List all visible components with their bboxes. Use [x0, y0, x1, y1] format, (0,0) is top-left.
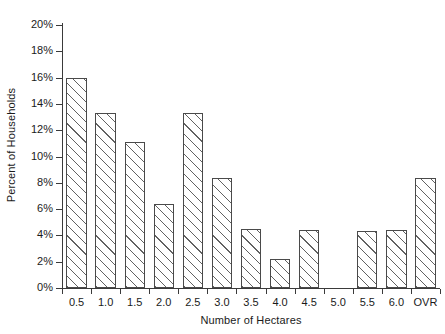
x-axis-tick — [178, 289, 179, 294]
x-axis-tick — [324, 289, 325, 294]
x-axis-tick — [149, 289, 150, 294]
x-axis-tick — [207, 289, 208, 294]
bar-chart: Percent of Households 0%2%4%6%8%10%12%14… — [0, 0, 445, 334]
plot-area — [62, 25, 440, 288]
x-axis-title: Number of Hectares — [62, 314, 440, 326]
bar — [357, 231, 377, 288]
x-axis-tick-label: 2.5 — [185, 296, 200, 308]
x-axis-tick — [62, 289, 63, 294]
y-axis-tick-label: 4% — [5, 229, 53, 240]
bar — [212, 178, 232, 288]
y-axis-tick-label: 12% — [5, 124, 53, 135]
bar — [183, 113, 203, 288]
y-axis-tick-label: 14% — [5, 98, 53, 109]
x-axis-tick-label: 2.0 — [156, 296, 171, 308]
bar — [386, 230, 406, 288]
y-axis-tick-label: 8% — [5, 177, 53, 188]
x-axis-tick-label: 3.0 — [214, 296, 229, 308]
x-axis-tick — [440, 289, 441, 294]
x-axis-line — [62, 288, 440, 289]
x-axis-tick-label: 4.5 — [301, 296, 316, 308]
bar — [95, 113, 115, 288]
x-axis-tick-label: 3.5 — [243, 296, 258, 308]
y-axis-tick-labels: 0%2%4%6%8%10%12%14%16%18%20% — [0, 0, 53, 334]
x-axis-tick — [236, 289, 237, 294]
x-axis-tick-label: 6.0 — [389, 296, 404, 308]
y-axis-tick-label: 0% — [5, 282, 53, 293]
y-axis-tick-label: 16% — [5, 72, 53, 83]
x-axis-tick-label: 1.0 — [98, 296, 113, 308]
bar — [154, 204, 174, 288]
x-axis-tick-label: 5.5 — [360, 296, 375, 308]
bar — [299, 230, 319, 288]
bar — [66, 78, 86, 288]
x-axis-tick — [353, 289, 354, 294]
bar — [241, 229, 261, 288]
y-axis-tick-label: 20% — [5, 19, 53, 30]
x-axis-tick — [411, 289, 412, 294]
bar — [415, 178, 435, 288]
bar — [270, 259, 290, 288]
x-axis-tick — [295, 289, 296, 294]
y-axis-tick-label: 10% — [5, 151, 53, 162]
x-axis-tick-label: 0.5 — [69, 296, 84, 308]
x-axis-tick-label: 4.0 — [272, 296, 287, 308]
y-axis-tick-label: 6% — [5, 203, 53, 214]
x-axis-tick-label: OVR — [414, 296, 438, 308]
x-axis-tick — [91, 289, 92, 294]
x-axis-tick — [266, 289, 267, 294]
y-axis-tick-label: 18% — [5, 45, 53, 56]
x-axis-tick-label: 5.0 — [331, 296, 346, 308]
x-axis-tick — [120, 289, 121, 294]
x-axis-tick — [382, 289, 383, 294]
y-axis-tick-label: 2% — [5, 256, 53, 267]
x-axis-tick-label: 1.5 — [127, 296, 142, 308]
bar — [125, 142, 145, 288]
